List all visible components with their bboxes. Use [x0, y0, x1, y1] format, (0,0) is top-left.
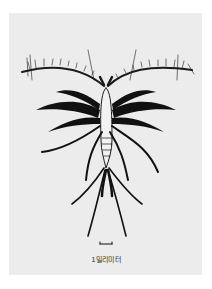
left-antenna [22, 68, 104, 86]
right-antenna [108, 68, 192, 86]
scale-bar-label: 1밀리미터 [0, 254, 212, 264]
specimen-illustration [0, 0, 212, 289]
scale-bar [100, 242, 112, 244]
